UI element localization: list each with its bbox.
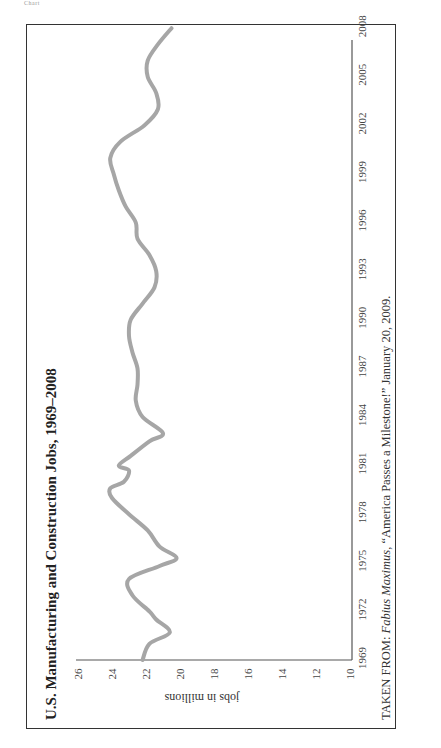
source-attribution: TAKEN FROM: Fabius Maximus, “America Pas… <box>379 296 393 720</box>
jobs-line <box>109 28 176 660</box>
value-tick-20: 20 <box>174 668 186 680</box>
year-tick-labels: 1969197219751978198119841987199019931996… <box>356 15 368 669</box>
year-tick-1969: 1969 <box>356 647 368 670</box>
year-tick-1996: 1996 <box>356 209 368 232</box>
year-tick-1999: 1999 <box>356 161 368 184</box>
year-tick-2008: 2008 <box>356 15 368 38</box>
value-tick-18: 18 <box>208 668 220 680</box>
value-tick-22: 22 <box>140 669 152 680</box>
year-tick-1975: 1975 <box>356 549 368 572</box>
chart-title: U.S. Manufacturing and Construction Jobs… <box>43 368 59 720</box>
year-tick-1972: 1972 <box>356 598 368 620</box>
year-tick-2005: 2005 <box>356 63 368 86</box>
year-tick-1984: 1984 <box>356 404 368 427</box>
line-chart: 101214161820222426 196919721975197819811… <box>0 0 441 748</box>
year-tick-1981: 1981 <box>356 453 368 475</box>
value-tick-14: 14 <box>276 668 288 680</box>
year-tick-2002: 2002 <box>356 112 368 134</box>
value-tick-labels: 101214161820222426 <box>72 668 356 680</box>
value-tick-12: 12 <box>310 669 322 680</box>
source-publication: Fabius Maximus, <box>379 547 393 635</box>
source-prefix: TAKEN FROM: <box>379 633 393 720</box>
value-tick-16: 16 <box>242 668 254 680</box>
year-tick-1993: 1993 <box>356 258 368 281</box>
year-tick-1987: 1987 <box>356 355 368 378</box>
value-tick-26: 26 <box>72 668 84 680</box>
year-tick-1978: 1978 <box>356 501 368 524</box>
year-tick-1990: 1990 <box>356 306 368 329</box>
value-tick-10: 10 <box>344 668 356 680</box>
y-axis-label: jobs in millions <box>164 691 240 705</box>
value-tick-24: 24 <box>106 668 118 680</box>
source-suffix: “America Passes a Milestone!” January 20… <box>379 296 393 547</box>
